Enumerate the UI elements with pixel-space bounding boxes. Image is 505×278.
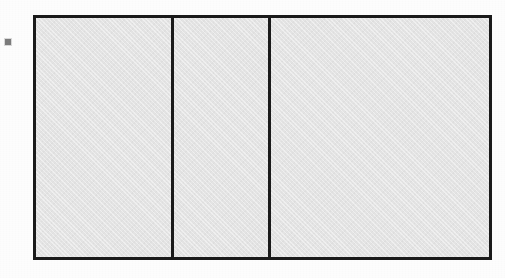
panel-1-label [36, 18, 171, 257]
panel-2-label [174, 18, 268, 257]
outlined-rectangle-frame [33, 15, 492, 260]
ink-speck-mark [5, 39, 11, 45]
panel-3 [268, 18, 489, 257]
panel-3-label [271, 18, 489, 257]
panel-1 [36, 18, 171, 257]
scanned-page [0, 0, 505, 278]
panel-2 [171, 18, 268, 257]
